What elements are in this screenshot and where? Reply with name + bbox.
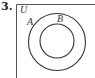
- universe-label: U: [20, 4, 28, 15]
- set-b-circle: [40, 24, 74, 58]
- venn-diagram: U A B: [0, 0, 95, 78]
- set-a-label: A: [26, 16, 34, 27]
- set-b-label: B: [57, 13, 63, 24]
